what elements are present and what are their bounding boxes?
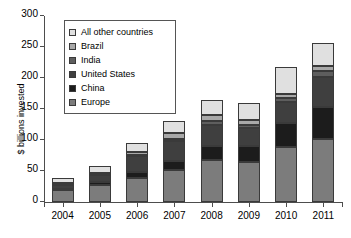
- y-axis-tick-label: 150: [21, 101, 38, 112]
- x-axis-tick-mark: [323, 203, 324, 207]
- bar-2005: [89, 166, 111, 202]
- bar-2006: [126, 142, 148, 202]
- bar-segment-china: [312, 107, 334, 139]
- bar-segment-china: [89, 182, 111, 184]
- y-axis-tick: 150: [44, 108, 45, 109]
- bar-segment-europe: [126, 178, 148, 202]
- x-axis-tick-label: 2009: [238, 210, 260, 221]
- bar-segment-brazil: [238, 120, 260, 125]
- legend-item-label: India: [81, 55, 101, 65]
- bar-2008: [201, 100, 223, 202]
- y-axis-label: $ billions invested: [14, 0, 28, 238]
- bar-segment-all-other-countries: [312, 43, 334, 66]
- bar-segment-all-other-countries: [89, 166, 111, 173]
- y-axis-tick-mark: [40, 201, 44, 202]
- legend-item-india[interactable]: India: [69, 53, 170, 67]
- y-axis-tick-label: 0: [32, 194, 38, 205]
- bar-segment-europe: [163, 170, 185, 202]
- bar-segment-europe: [312, 139, 334, 202]
- bar-segment-united-states: [52, 185, 74, 189]
- chart-container: $ billions invested 050100150200250300 2…: [0, 0, 351, 238]
- x-axis-tick-mark: [100, 203, 101, 207]
- bar-segment-europe: [89, 185, 111, 202]
- bar-segment-united-states: [126, 156, 148, 172]
- bar-segment-china: [275, 123, 297, 147]
- legend-item-label: Europe: [81, 97, 110, 107]
- y-axis-tick: 50: [44, 170, 45, 171]
- legend-item-china[interactable]: China: [69, 81, 170, 95]
- y-axis-tick: 250: [44, 46, 45, 47]
- bar-segment-india: [201, 121, 223, 124]
- bar-segment-all-other-countries: [126, 143, 148, 153]
- y-axis-tick-mark: [40, 77, 44, 78]
- y-axis-tick-mark: [40, 46, 44, 47]
- bar-segment-india: [275, 98, 297, 102]
- bar-segment-united-states: [312, 77, 334, 107]
- bar-segment-europe: [201, 160, 223, 202]
- legend-item-all-other-countries[interactable]: All other countries: [69, 25, 170, 39]
- x-axis-tick-mark: [249, 203, 250, 207]
- legend-item-label: All other countries: [81, 27, 153, 37]
- bar-segment-china: [126, 172, 148, 179]
- legend-item-label: United States: [81, 69, 135, 79]
- bar-segment-europe: [238, 162, 260, 202]
- bar-2010: [275, 67, 297, 202]
- bar-segment-china: [201, 146, 223, 160]
- legend-swatch-icon: [69, 43, 76, 50]
- bar-segment-all-other-countries: [238, 103, 260, 120]
- x-axis-tick-label: 2007: [163, 210, 185, 221]
- y-axis-tick: 200: [44, 77, 45, 78]
- bar-2004: [52, 178, 74, 202]
- bar-segment-united-states: [238, 128, 260, 147]
- bar-2009: [238, 103, 260, 202]
- bar-segment-all-other-countries: [52, 178, 74, 183]
- y-axis-tick-label: 300: [21, 8, 38, 19]
- legend-item-label: Brazil: [81, 41, 104, 51]
- bar-segment-united-states: [89, 175, 111, 182]
- bar-segment-all-other-countries: [201, 100, 223, 115]
- y-axis-tick: 100: [44, 139, 45, 140]
- x-axis-tick-mark: [137, 203, 138, 207]
- bar-segment-india: [163, 139, 185, 141]
- y-axis-tick: 300: [44, 15, 45, 16]
- x-axis-tick-mark: [342, 203, 343, 207]
- y-axis-tick-mark: [40, 108, 44, 109]
- bar-segment-united-states: [275, 102, 297, 123]
- bar-segment-europe: [275, 147, 297, 202]
- legend-swatch-icon: [69, 71, 76, 78]
- x-axis-tick-label: 2011: [313, 210, 335, 221]
- bar-segment-brazil: [275, 94, 297, 99]
- bar-segment-united-states: [163, 141, 185, 161]
- bar-segment-europe: [52, 190, 74, 202]
- x-axis-tick-mark: [212, 203, 213, 207]
- legend-swatch-icon: [69, 99, 76, 106]
- y-axis-tick-mark: [40, 170, 44, 171]
- x-axis-tick-label: 2005: [89, 210, 111, 221]
- bar-segment-brazil: [201, 115, 223, 122]
- y-axis-tick-label: 200: [21, 70, 38, 81]
- legend-swatch-icon: [69, 85, 76, 92]
- bar-segment-all-other-countries: [163, 121, 185, 133]
- y-axis-tick-mark: [40, 139, 44, 140]
- bar-segment-china: [238, 146, 260, 162]
- legend-item-label: China: [81, 83, 105, 93]
- legend-item-united-states[interactable]: United States: [69, 67, 170, 81]
- bar-segment-brazil: [312, 66, 334, 71]
- y-axis-tick-label: 100: [21, 132, 38, 143]
- chart-legend: All other countriesBrazilIndiaUnited Sta…: [64, 20, 176, 114]
- bar-segment-india: [238, 125, 260, 127]
- y-axis-tick-label: 250: [21, 39, 38, 50]
- x-axis-tick-mark: [44, 203, 45, 207]
- x-axis-tick-label: 2010: [275, 210, 297, 221]
- legend-swatch-icon: [69, 57, 76, 64]
- bar-2007: [163, 121, 185, 202]
- bar-segment-brazil: [126, 152, 148, 154]
- legend-item-brazil[interactable]: Brazil: [69, 39, 170, 53]
- bar-segment-brazil: [163, 133, 185, 139]
- bar-segment-china: [163, 161, 185, 170]
- x-axis-tick-label: 2008: [201, 210, 223, 221]
- legend-item-europe[interactable]: Europe: [69, 95, 170, 109]
- x-axis-tick-mark: [286, 203, 287, 207]
- bar-2011: [312, 43, 334, 202]
- x-axis-tick-label: 2004: [52, 210, 74, 221]
